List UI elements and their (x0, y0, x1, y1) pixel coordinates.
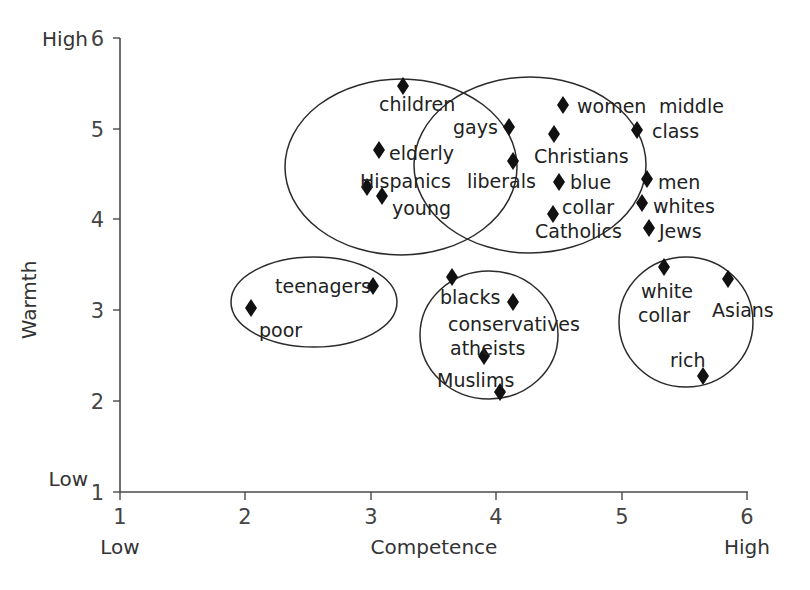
label-asians: Asians (712, 299, 774, 321)
y-tick-label-6: 6 (91, 27, 104, 51)
label-children: children (379, 93, 455, 115)
marker-poor[interactable] (245, 299, 257, 317)
x-tick-label-1: 1 (113, 505, 126, 529)
label-whites: whites (653, 195, 715, 217)
label-hispanics: Hispanics (360, 170, 451, 192)
label-young: young (392, 197, 451, 219)
marker-gays[interactable] (503, 118, 515, 136)
label-blacks: blacks (440, 286, 500, 308)
y-tick-label-4: 4 (91, 208, 104, 232)
x-tick-label-3: 3 (364, 505, 377, 529)
y-axis-low-label: Low (49, 467, 88, 491)
label-class: class (652, 120, 699, 142)
x-tick-label-6: 6 (740, 505, 753, 529)
plot-canvas: 6 5 4 3 2 1 1 2 3 4 5 6 High Low Low Hig… (0, 0, 810, 590)
marker-christians[interactable] (548, 125, 560, 143)
cluster-pity (231, 257, 397, 347)
x-axis-title: Competence (371, 535, 498, 559)
x-axis-high-label: High (724, 535, 770, 559)
x-tick-label-2: 2 (238, 505, 251, 529)
marker-elderly[interactable] (373, 141, 385, 159)
marker-conservatives[interactable] (507, 293, 519, 311)
y-axis-high-label: High (42, 27, 88, 51)
y-tick-label-1: 1 (91, 481, 104, 505)
y-tick-label-5: 5 (91, 118, 104, 142)
marker-blue-collar[interactable] (553, 173, 565, 191)
label-white-collar-line1: white (641, 280, 693, 302)
y-tick-label-3: 3 (91, 299, 104, 323)
label-collar: collar (562, 196, 614, 218)
x-tick-label-5: 5 (615, 505, 628, 529)
label-white-collar-line2: collar (638, 304, 690, 326)
label-muslims: Muslims (437, 369, 514, 391)
label-gays: gays (453, 116, 498, 138)
y-axis-title: Warmth (17, 261, 41, 340)
label-conservatives: conservatives (448, 313, 580, 335)
label-poor: poor (259, 319, 302, 341)
label-elderly: elderly (389, 142, 454, 164)
marker-asians[interactable] (722, 270, 734, 288)
label-jews: Jews (658, 220, 702, 242)
marker-white-collar[interactable] (658, 258, 670, 276)
label-christians: Christians (534, 145, 629, 167)
label-rich: rich (670, 349, 706, 371)
marker-women[interactable] (557, 96, 569, 114)
label-liberals: liberals (467, 170, 536, 192)
label-women: women (577, 95, 646, 117)
x-axis-low-label: Low (100, 535, 139, 559)
marker-jews[interactable] (643, 219, 655, 237)
label-men: men (658, 171, 700, 193)
label-catholics: Catholics (535, 220, 622, 242)
scatter-plot-figure: 6 5 4 3 2 1 1 2 3 4 5 6 High Low Low Hig… (0, 0, 810, 590)
y-tick-label-2: 2 (91, 390, 104, 414)
label-blue: blue (570, 171, 611, 193)
label-middle: middle (659, 95, 724, 117)
label-atheists: atheists (450, 337, 525, 359)
label-teenagers: teenagers (275, 275, 371, 297)
x-tick-label-4: 4 (489, 505, 502, 529)
